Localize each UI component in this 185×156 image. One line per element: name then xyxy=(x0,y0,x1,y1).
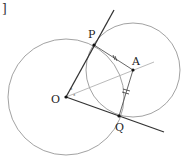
point-p xyxy=(92,43,95,46)
line-oa xyxy=(66,62,154,97)
point-o xyxy=(64,95,67,98)
label-a: A xyxy=(131,55,141,68)
label-q: Q xyxy=(115,121,124,134)
point-q xyxy=(117,114,120,117)
angle-mark-lower: ° xyxy=(73,93,76,99)
point-a xyxy=(131,68,134,71)
label-p: P xyxy=(88,28,96,41)
segment-pa xyxy=(94,45,133,70)
label-o: O xyxy=(51,93,60,106)
geometry-diagram: ] ° ° O P A Q xyxy=(0,0,185,156)
corner-bracket: ] xyxy=(2,2,7,16)
